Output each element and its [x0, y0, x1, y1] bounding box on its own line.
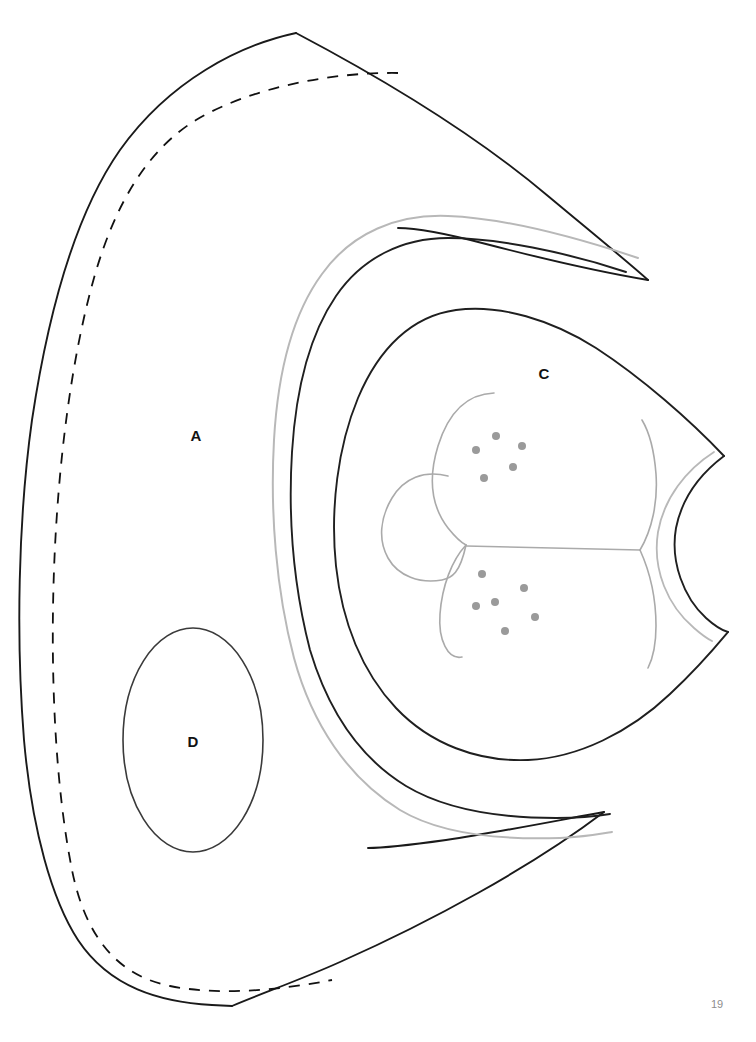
detail-dot — [472, 446, 480, 454]
page-number: 19 — [711, 998, 723, 1010]
detail-dot — [472, 602, 480, 610]
line-art-diagram: A C D 19 — [0, 0, 756, 1042]
detail-dot — [480, 474, 488, 482]
page-background — [0, 0, 756, 1042]
label-a: A — [191, 427, 202, 444]
detail-dot — [491, 598, 499, 606]
detail-dot — [478, 570, 486, 578]
figure-root: A C D 19 — [0, 0, 756, 1042]
label-c: C — [539, 365, 550, 382]
label-d: D — [188, 733, 199, 750]
detail-dot — [509, 463, 517, 471]
detail-dot — [501, 627, 509, 635]
detail-dot — [531, 613, 539, 621]
detail-dot — [492, 432, 500, 440]
detail-dot — [518, 442, 526, 450]
detail-dot — [520, 584, 528, 592]
